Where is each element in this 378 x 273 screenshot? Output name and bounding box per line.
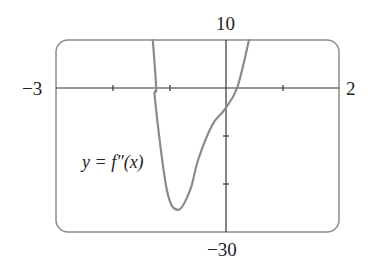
curve-label: y = f″(x) (82, 153, 144, 171)
y-max-label: 10 (216, 14, 235, 33)
x-max-label: 2 (346, 79, 356, 98)
y-min-label: −30 (207, 240, 237, 259)
plot-frame (56, 40, 339, 232)
x-min-label: −3 (22, 79, 42, 98)
chart-canvas (0, 0, 378, 273)
second-derivative-curve (153, 40, 249, 210)
